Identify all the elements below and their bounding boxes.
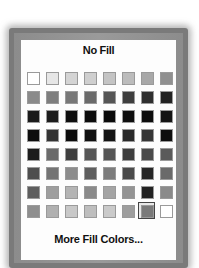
color-swatch-cell[interactable]	[103, 72, 122, 91]
color-swatch[interactable]	[46, 91, 59, 104]
color-swatch[interactable]	[122, 186, 135, 199]
color-swatch[interactable]	[141, 110, 154, 123]
color-swatch-cell[interactable]	[27, 129, 46, 148]
color-swatch-cell[interactable]	[65, 186, 84, 205]
color-swatch[interactable]	[160, 167, 173, 180]
color-swatch[interactable]	[141, 72, 154, 85]
color-swatch-cell[interactable]	[27, 205, 46, 224]
color-swatch[interactable]	[27, 186, 40, 199]
color-swatch[interactable]	[84, 129, 97, 142]
color-swatch-cell[interactable]	[122, 91, 141, 110]
no-fill-button[interactable]: No Fill	[21, 44, 176, 56]
color-swatch-cell[interactable]	[46, 148, 65, 167]
color-swatch-cell[interactable]	[103, 148, 122, 167]
color-swatch-cell[interactable]	[27, 110, 46, 129]
color-swatch-cell[interactable]	[103, 129, 122, 148]
color-swatch-cell[interactable]	[27, 72, 46, 91]
color-swatch[interactable]	[160, 148, 173, 161]
color-swatch-cell[interactable]	[122, 72, 141, 91]
color-swatch[interactable]	[141, 91, 154, 104]
color-swatch-cell[interactable]	[27, 186, 46, 205]
more-fill-colors-button[interactable]: More Fill Colors...	[21, 233, 176, 245]
color-swatch-cell[interactable]	[84, 129, 103, 148]
color-swatch[interactable]	[84, 110, 97, 123]
color-swatch-cell[interactable]	[84, 110, 103, 129]
color-swatch[interactable]	[122, 148, 135, 161]
color-swatch-cell[interactable]	[103, 110, 122, 129]
color-swatch-cell[interactable]	[46, 91, 65, 110]
color-swatch[interactable]	[65, 148, 78, 161]
color-swatch[interactable]	[27, 110, 40, 123]
color-swatch[interactable]	[160, 129, 173, 142]
color-swatch-cell[interactable]	[122, 110, 141, 129]
color-swatch-cell[interactable]	[65, 148, 84, 167]
color-swatch-cell[interactable]	[141, 91, 160, 110]
color-swatch-cell[interactable]	[141, 167, 160, 186]
color-swatch-cell[interactable]	[65, 72, 84, 91]
color-swatch-cell[interactable]	[65, 110, 84, 129]
color-swatch-cell[interactable]	[160, 72, 179, 91]
color-swatch-cell[interactable]	[46, 129, 65, 148]
color-swatch[interactable]	[27, 72, 40, 85]
color-swatch[interactable]	[46, 186, 59, 199]
color-swatch[interactable]	[103, 186, 116, 199]
color-swatch[interactable]	[46, 72, 59, 85]
color-swatch[interactable]	[84, 205, 97, 218]
color-swatch[interactable]	[141, 186, 154, 199]
color-swatch[interactable]	[160, 91, 173, 104]
color-swatch[interactable]	[103, 167, 116, 180]
color-swatch-cell[interactable]	[122, 167, 141, 186]
color-swatch-cell[interactable]	[141, 110, 160, 129]
color-swatch-cell[interactable]	[27, 91, 46, 110]
color-swatch-cell-selected[interactable]	[141, 205, 160, 224]
color-swatch[interactable]	[65, 72, 78, 85]
color-swatch[interactable]	[122, 167, 135, 180]
color-swatch[interactable]	[103, 72, 116, 85]
color-swatch-cell[interactable]	[65, 167, 84, 186]
color-swatch-cell[interactable]	[84, 148, 103, 167]
color-swatch[interactable]	[84, 91, 97, 104]
color-swatch[interactable]	[141, 205, 154, 218]
color-swatch-cell[interactable]	[160, 129, 179, 148]
color-swatch[interactable]	[103, 205, 116, 218]
color-swatch-cell[interactable]	[65, 129, 84, 148]
color-swatch[interactable]	[122, 72, 135, 85]
color-swatch[interactable]	[46, 167, 59, 180]
color-swatch[interactable]	[46, 148, 59, 161]
color-swatch[interactable]	[65, 167, 78, 180]
color-swatch-cell[interactable]	[27, 167, 46, 186]
color-swatch-cell[interactable]	[84, 205, 103, 224]
color-swatch-cell[interactable]	[122, 129, 141, 148]
color-swatch[interactable]	[103, 148, 116, 161]
color-swatch[interactable]	[46, 110, 59, 123]
color-swatch-cell[interactable]	[84, 72, 103, 91]
color-swatch-cell[interactable]	[46, 72, 65, 91]
color-swatch[interactable]	[65, 91, 78, 104]
color-swatch[interactable]	[160, 110, 173, 123]
color-swatch[interactable]	[122, 91, 135, 104]
color-swatch-cell[interactable]	[103, 205, 122, 224]
color-swatch[interactable]	[141, 167, 154, 180]
color-swatch[interactable]	[122, 205, 135, 218]
color-swatch[interactable]	[65, 129, 78, 142]
color-swatch[interactable]	[46, 129, 59, 142]
color-swatch-cell[interactable]	[103, 91, 122, 110]
color-swatch-cell[interactable]	[27, 148, 46, 167]
color-swatch-cell[interactable]	[141, 148, 160, 167]
color-swatch-cell[interactable]	[65, 205, 84, 224]
color-swatch-cell[interactable]	[84, 186, 103, 205]
color-swatch-cell[interactable]	[84, 91, 103, 110]
color-swatch[interactable]	[160, 205, 173, 218]
color-swatch[interactable]	[103, 110, 116, 123]
color-swatch-cell[interactable]	[160, 167, 179, 186]
color-swatch-cell[interactable]	[160, 91, 179, 110]
color-swatch-cell[interactable]	[160, 110, 179, 129]
color-swatch-cell[interactable]	[103, 186, 122, 205]
color-swatch-cell[interactable]	[103, 167, 122, 186]
color-swatch[interactable]	[84, 148, 97, 161]
color-swatch[interactable]	[84, 72, 97, 85]
color-swatch[interactable]	[141, 148, 154, 161]
color-swatch-cell[interactable]	[160, 186, 179, 205]
color-swatch[interactable]	[141, 129, 154, 142]
color-swatch-cell[interactable]	[122, 148, 141, 167]
